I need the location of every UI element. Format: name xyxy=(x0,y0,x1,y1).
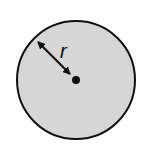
circle-diagram: r xyxy=(0,0,142,150)
center-dot xyxy=(72,76,80,84)
